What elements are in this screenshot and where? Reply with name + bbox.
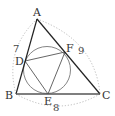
label-vertex-a: A: [32, 6, 42, 19]
label-length-bc: 8: [53, 102, 59, 113]
label-point-d: D: [15, 55, 24, 68]
label-point-f: F: [66, 42, 74, 55]
label-length-ca: 9: [78, 45, 84, 56]
geometry-diagram: A B C D E F 7 9 8: [0, 0, 115, 116]
incircle: [24, 47, 71, 94]
label-length-ab: 7: [13, 43, 19, 54]
label-vertex-c: C: [102, 89, 110, 102]
label-vertex-b: B: [5, 89, 13, 102]
label-point-e: E: [44, 95, 52, 108]
